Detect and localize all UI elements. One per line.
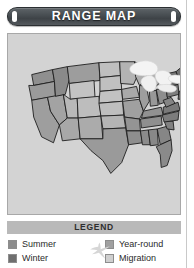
legend-swatch-summer <box>8 240 17 249</box>
legend-item-winter: Winter <box>8 251 84 265</box>
map-panel <box>7 33 181 215</box>
legend-label-year-round: Year-round <box>119 240 163 249</box>
legend-swatch-winter <box>8 254 17 263</box>
state-nm <box>78 116 103 139</box>
us-range-map <box>8 34 180 214</box>
legend-label-summer: Summer <box>22 240 56 249</box>
legend-item-summer: Summer <box>8 237 84 251</box>
state-co <box>77 96 101 118</box>
legend-label-winter: Winter <box>22 254 48 263</box>
state-la <box>127 131 143 145</box>
legend-header-label: LEGEND <box>74 223 114 232</box>
state-id <box>52 67 69 97</box>
legend-body: Summer Winter Year-round Migration <box>7 237 181 265</box>
legend-header-bar: LEGEND <box>7 221 181 234</box>
state-ok <box>101 115 126 129</box>
state-mt <box>67 63 100 84</box>
legend-label-migration: Migration <box>119 254 156 263</box>
page-rule-right <box>186 0 187 268</box>
legend-item-migration: Migration <box>105 251 181 265</box>
state-ks <box>99 101 124 116</box>
page-title: RANGE MAP <box>7 7 181 26</box>
legend-item-year-round: Year-round <box>105 237 181 251</box>
state-ar <box>125 117 141 131</box>
legend-column-left: Summer Winter <box>8 237 84 265</box>
bird-icon <box>85 240 115 262</box>
title-banner: RANGE MAP <box>7 7 181 26</box>
state-ia <box>122 86 140 99</box>
state-al <box>148 129 158 146</box>
state-wy <box>69 81 95 100</box>
state-sd <box>100 76 122 92</box>
state-nd <box>99 62 121 78</box>
legend-column-right: Year-round Migration <box>105 237 181 265</box>
range-map-card: RANGE MAP <box>0 0 194 268</box>
